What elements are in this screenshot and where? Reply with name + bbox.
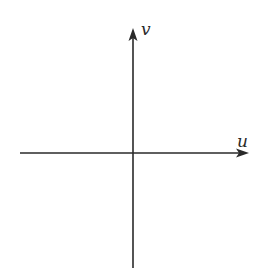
uv-coordinate-plane: v u	[0, 0, 266, 275]
axes-graphic	[0, 0, 266, 275]
v-axis-label: v	[141, 21, 151, 38]
u-axis-label: u	[237, 133, 248, 150]
